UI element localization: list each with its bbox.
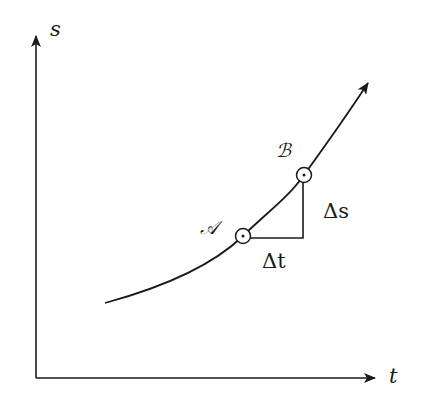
diagram-svg <box>0 0 423 407</box>
delta-t-label: Δt <box>262 251 286 272</box>
delta-s-label: Δs <box>323 201 349 222</box>
point-b-marker <box>297 168 312 183</box>
point-a-marker <box>236 229 251 244</box>
position-curve <box>105 83 368 303</box>
y-axis-label: s <box>50 19 61 40</box>
point-b-label: ℬ <box>276 141 291 160</box>
point-a-label: 𝒜 <box>200 218 218 237</box>
diagram-canvas: s t 𝒜 ℬ Δs Δt <box>0 0 423 407</box>
secant-triangle <box>249 183 303 238</box>
x-axis-label: t <box>389 366 397 387</box>
